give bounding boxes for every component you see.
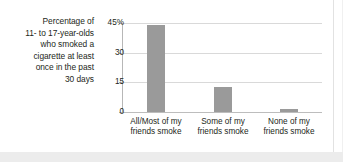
y-axis-line (122, 23, 123, 113)
caption-line: cigarette at least (4, 51, 94, 63)
bar-some-of-my-friends-smoke (214, 87, 232, 112)
x-axis-label-line: friends smoke (185, 127, 261, 137)
x-axis-label-line: friends smoke (251, 127, 327, 137)
x-axis-label-line: friends smoke (118, 127, 194, 137)
axis-baseline (123, 112, 322, 113)
y-axis-label-15: 15 (98, 78, 124, 86)
bar-none-of-my-friends-smoke (280, 109, 298, 112)
bar-all-most-of-my-friends-smoke (147, 25, 165, 112)
caption-line: who smoked a (4, 39, 94, 51)
page-edge-rule (333, 0, 334, 152)
x-axis-label-1: Some of my friends smoke (185, 117, 261, 138)
y-axis-label-45: 45% (98, 19, 124, 27)
y-axis-label-30: 30 (98, 49, 124, 57)
page-bottom-band (0, 152, 343, 162)
x-axis-label-0: All/Most of my friends smoke (118, 117, 194, 138)
x-axis-label-line: Some of my (185, 117, 261, 127)
gridline-45 (123, 23, 322, 24)
x-axis-label-line: None of my (251, 117, 327, 127)
chart-caption: Percentage of 11- to 17-year-olds who sm… (4, 16, 94, 86)
x-axis-label-line: All/Most of my (118, 117, 194, 127)
figure-panel: Percentage of 11- to 17-year-olds who sm… (0, 0, 343, 162)
caption-line: 11- to 17-year-olds (4, 28, 94, 40)
caption-line: Percentage of (4, 16, 94, 28)
caption-line: once in the past (4, 62, 94, 74)
y-axis-label-0: 0 (98, 108, 124, 116)
plot-area: 45% 30 15 0 All/Most of my friends smoke… (96, 18, 328, 150)
caption-line: 30 days (4, 74, 94, 86)
x-axis-label-2: None of my friends smoke (251, 117, 327, 138)
